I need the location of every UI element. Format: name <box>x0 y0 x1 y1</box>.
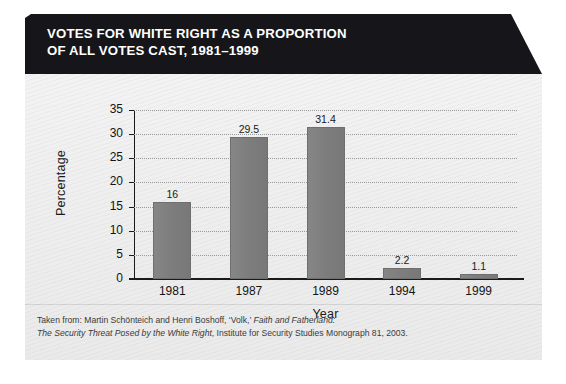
y-tick-mark <box>129 255 134 256</box>
y-tick-mark <box>129 231 134 232</box>
bar-value-label: 29.5 <box>219 123 279 135</box>
chart-plot-area: Percentage 05101520253035 1629.531.42.21… <box>25 72 542 360</box>
y-tick-label: 15 <box>83 199 123 213</box>
title-banner: VOTES FOR WHITE RIGHT AS A PROPORTION OF… <box>25 14 542 74</box>
y-tick-mark <box>129 110 134 111</box>
x-tick-label: 1999 <box>449 284 509 298</box>
figure-card: VOTES FOR WHITE RIGHT AS A PROPORTION OF… <box>25 14 542 360</box>
y-tick-mark <box>129 134 134 135</box>
gridline <box>134 110 517 111</box>
y-tick-mark <box>129 158 134 159</box>
y-tick-label: 35 <box>83 102 123 116</box>
bar <box>230 137 268 279</box>
x-tick-label: 1994 <box>372 284 432 298</box>
x-tick-label: 1989 <box>296 284 356 298</box>
bar <box>153 202 191 279</box>
page-title: VOTES FOR WHITE RIGHT AS A PROPORTION OF… <box>47 25 467 59</box>
source-caption: Taken from: Martin Schönteich and Henri … <box>37 314 532 340</box>
caption-line-2-text: , Institute for Security Studies Monogra… <box>212 328 408 338</box>
bar-value-label: 31.4 <box>296 113 356 125</box>
x-tick-label: 1987 <box>219 284 279 298</box>
bar <box>307 127 345 279</box>
caption-line-2-italic: The Security Threat Posed by the White R… <box>37 328 212 338</box>
y-tick-label: 30 <box>83 126 123 140</box>
title-line-1: VOTES FOR WHITE RIGHT AS A PROPORTION <box>47 25 467 42</box>
caption-line-2: The Security Threat Posed by the White R… <box>37 327 532 340</box>
y-tick-label: 0 <box>83 271 123 285</box>
bar <box>460 274 498 279</box>
y-tick-label: 10 <box>83 223 123 237</box>
y-tick-label: 20 <box>83 174 123 188</box>
bar-value-label: 2.2 <box>372 254 432 266</box>
caption-line-1-text: Taken from: Martin Schönteich and Henri … <box>37 315 253 325</box>
y-tick-label: 25 <box>83 150 123 164</box>
x-tick-label: 1981 <box>142 284 202 298</box>
bar-value-label: 1.1 <box>449 260 509 272</box>
y-tick-mark <box>129 207 134 208</box>
title-line-2: OF ALL VOTES CAST, 1981–1999 <box>47 42 467 59</box>
caption-line-1-italic: Faith and Fatherland: <box>253 315 335 325</box>
bar-value-label: 16 <box>142 188 202 200</box>
caption-divider <box>25 304 542 305</box>
caption-line-1: Taken from: Martin Schönteich and Henri … <box>37 314 532 327</box>
y-tick-label: 5 <box>83 247 123 261</box>
y-tick-mark <box>129 279 134 280</box>
bar <box>383 268 421 279</box>
y-axis-label: Percentage <box>54 123 68 243</box>
y-tick-mark <box>129 182 134 183</box>
